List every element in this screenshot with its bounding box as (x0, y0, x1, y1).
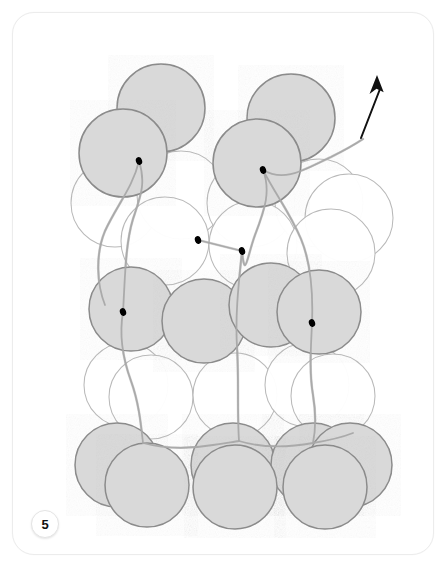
sphere-filled (89, 267, 173, 351)
sphere-filled (79, 109, 167, 197)
direction-arrow (361, 75, 384, 138)
sphere-filled (213, 119, 301, 207)
sphere-model-figure (13, 13, 433, 554)
arrow-head (370, 75, 384, 94)
sphere-filled (277, 270, 361, 354)
arrow-shaft (361, 89, 380, 138)
figure-page: 5 (0, 0, 444, 565)
sphere-filled (105, 443, 189, 527)
sphere-filled (283, 445, 367, 529)
sphere-layer-filled (75, 64, 392, 529)
sphere-model-svg (13, 13, 433, 554)
sphere-filled (193, 445, 277, 529)
figure-number-badge: 5 (31, 510, 59, 538)
figure-card: 5 (12, 12, 434, 555)
